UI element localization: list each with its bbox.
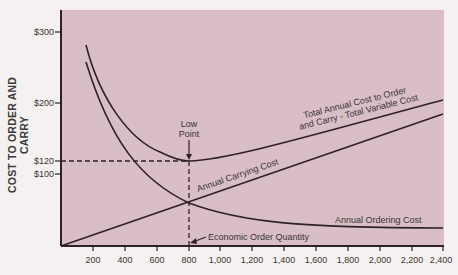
svg-text:1,400: 1,400 [273,255,296,265]
svg-text:1,800: 1,800 [337,255,360,265]
svg-text:$100: $100 [34,169,54,179]
svg-text:2,400: 2,400 [430,255,453,265]
svg-text:400: 400 [117,255,132,265]
svg-text:800: 800 [181,255,196,265]
svg-text:2,200: 2,200 [401,255,424,265]
ordering-cost-label: Annual Ordering Cost [335,215,422,225]
svg-text:Low: Low [181,119,198,129]
svg-text:1,000: 1,000 [209,255,232,265]
svg-text:600: 600 [149,255,164,265]
svg-text:$120: $120 [34,156,54,166]
svg-text:1,200: 1,200 [241,255,264,265]
svg-text:$300: $300 [34,27,54,37]
plot-area [61,10,444,246]
eoq-chart: $300 $200 $120 $100 200 400 600 800 1,00… [0,0,458,275]
svg-text:Economic Order Quantity: Economic Order Quantity [208,232,310,242]
svg-text:Point: Point [179,129,200,139]
svg-text:2,000: 2,000 [369,255,392,265]
svg-text:1,600: 1,600 [305,255,328,265]
x-tick-labels: 200 400 600 800 1,000 1,200 1,400 1,600 … [85,255,452,265]
svg-text:$200: $200 [34,98,54,108]
y-tick-labels: $300 $200 $120 $100 [34,27,54,179]
svg-text:200: 200 [85,255,100,265]
